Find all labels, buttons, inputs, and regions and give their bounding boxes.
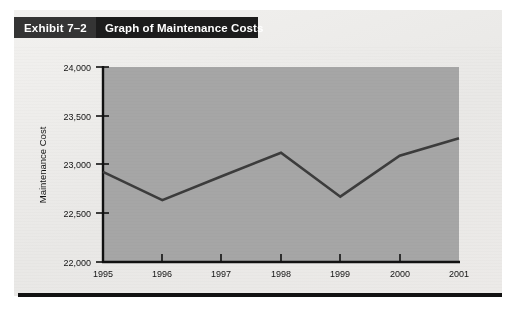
plot-area-background — [103, 67, 459, 262]
y-axis-title: Maintenance Cost — [37, 126, 48, 203]
exhibit-bottom-rule — [18, 293, 502, 297]
x-tick-label-2001: 2001 — [449, 269, 469, 279]
x-tick-label-1999: 1999 — [330, 269, 350, 279]
exhibit-title: Graph of Maintenance Costs — [96, 17, 276, 38]
exhibit-page: Exhibit 7–2 Graph of Maintenance Costs 2… — [0, 0, 516, 313]
x-tick-label-1996: 1996 — [152, 269, 172, 279]
y-tick-label-22500: 22,500 — [63, 209, 91, 219]
y-tick-label-23500: 23,500 — [63, 112, 91, 122]
x-tick-label-1997: 1997 — [211, 269, 231, 279]
x-tick-label-2000: 2000 — [390, 269, 410, 279]
x-tick-label-1998: 1998 — [271, 269, 291, 279]
exhibit-header-bar: Exhibit 7–2 Graph of Maintenance Costs — [14, 17, 258, 38]
y-tick-label-22000: 22,000 — [63, 258, 91, 268]
exhibit-number-label: Exhibit 7–2 — [14, 17, 96, 38]
maintenance-cost-line-chart: 24,000 23,500 23,000 22,500 22,000 Maint… — [14, 46, 502, 291]
chart-region: 24,000 23,500 23,000 22,500 22,000 Maint… — [14, 46, 502, 291]
y-tick-label-24000: 24,000 — [63, 63, 91, 73]
y-tick-label-23000: 23,000 — [63, 160, 91, 170]
x-tick-label-1995: 1995 — [93, 269, 113, 279]
